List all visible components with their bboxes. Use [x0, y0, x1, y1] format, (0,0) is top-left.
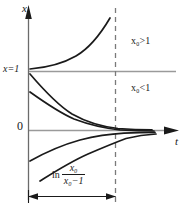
region-label-x0-less-than-1: x₀<1 — [131, 83, 150, 93]
t-axis-arrowhead — [164, 127, 179, 135]
x-axis-label: x — [22, 3, 27, 14]
equilibrium-value-label: x=1 — [3, 64, 19, 74]
origin-label: 0 — [17, 120, 23, 132]
interval-arrowhead-right — [106, 193, 116, 200]
phase-portrait-figure: x t x=1 0 x₀>1 x₀<1 lnx₀x₀−1 — [0, 0, 191, 213]
interval-formula-fraction: x₀x₀−1 — [62, 163, 86, 186]
interval-formula-denominator: x₀−1 — [62, 176, 86, 186]
interval-formula: lnx₀x₀−1 — [52, 163, 85, 186]
interval-formula-ln: ln — [52, 169, 60, 180]
interval-formula-numerator: x₀ — [62, 163, 86, 173]
curve-x0-greater-than-1 — [30, 18, 110, 69]
region-label-x0-greater-than-1: x₀>1 — [131, 36, 150, 46]
interval-arrowhead-left — [28, 193, 38, 200]
plot-canvas — [0, 0, 191, 213]
t-axis-label: t — [175, 136, 178, 147]
curve-x0-below-1-lower — [30, 92, 154, 131]
